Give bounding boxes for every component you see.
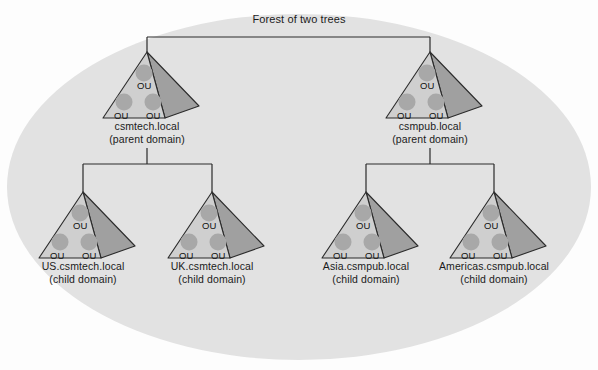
- ou-circle: [201, 205, 218, 222]
- domain-role: (parent domain): [57, 133, 237, 146]
- ou-circle: [335, 234, 352, 251]
- ou-circle: [52, 234, 69, 251]
- ou-circle: [116, 94, 133, 111]
- ou-circle: [492, 234, 509, 251]
- ou-circle: [355, 205, 372, 222]
- domain-role: (parent domain): [340, 133, 520, 146]
- ou-circle: [399, 94, 416, 111]
- ou-circle: [81, 234, 98, 251]
- domain-label-uk-csmtech: UK.csmtech.local (child domain): [122, 260, 302, 285]
- ou-circle: [145, 94, 162, 111]
- forest-diagram: Forest of two trees OU OU OU OU OU OU OU…: [0, 0, 598, 370]
- ou-circle: [428, 94, 445, 111]
- ou-circle: [181, 234, 198, 251]
- ou-circle: [210, 234, 227, 251]
- diagram-graphics: [0, 0, 598, 370]
- domain-label-csmpub: csmpub.local (parent domain): [340, 120, 520, 145]
- domain-name: csmtech.local: [115, 120, 180, 132]
- ou-label: OU: [202, 220, 217, 231]
- domain-label-csmtech: csmtech.local (parent domain): [57, 120, 237, 145]
- ou-label: OU: [356, 220, 371, 231]
- diagram-title: Forest of two trees: [0, 13, 598, 25]
- ou-circle: [483, 205, 500, 222]
- ou-label: OU: [420, 80, 435, 91]
- domain-role: (child domain): [404, 273, 584, 286]
- ou-circle: [419, 65, 436, 82]
- domain-label-americas-csmpub: Americas.csmpub.local (child domain): [404, 260, 584, 285]
- domain-role: (child domain): [122, 273, 302, 286]
- domain-name: US.csmtech.local: [42, 260, 125, 272]
- ou-circle: [364, 234, 381, 251]
- domain-name: csmpub.local: [399, 120, 461, 132]
- ou-label: OU: [137, 80, 152, 91]
- ou-circle: [463, 234, 480, 251]
- oval-background: [7, 14, 591, 360]
- ou-label: OU: [73, 220, 88, 231]
- ou-label: OU: [484, 220, 499, 231]
- domain-name: Americas.csmpub.local: [439, 260, 549, 272]
- domain-name: UK.csmtech.local: [171, 260, 254, 272]
- ou-circle: [72, 205, 89, 222]
- domain-name: Asia.csmpub.local: [323, 260, 409, 272]
- ou-circle: [136, 65, 153, 82]
